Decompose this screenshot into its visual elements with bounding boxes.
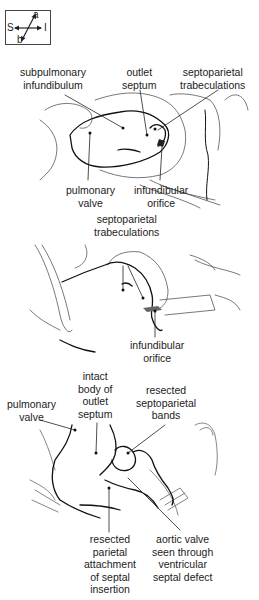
label-resected-septoparietal-bands: resected septoparietal bands (136, 384, 196, 422)
panel-2-drawing (30, 245, 240, 332)
label-infundibular-orifice: infundibular orifice (134, 184, 188, 209)
label-subpulmonary-infundibulum: subpulmonary infundibulum (20, 66, 86, 91)
panel-3-drawing (30, 423, 217, 515)
label-resected-parietal-attachment: resected parietal attachment of septal i… (84, 533, 136, 596)
label-infundibular-orifice-2: infundibular orifice (130, 339, 184, 364)
label-septoparietal-trabeculations: septoparietal trabeculations (180, 66, 245, 91)
label-septoparietal-trabeculations-2: septoparietal trabeculations (94, 213, 159, 238)
label-outlet-septum: outlet septum (122, 66, 156, 91)
label-intact-body-outlet-septum: intact body of outlet septum (78, 370, 112, 420)
label-pulmonary-valve: pulmonary valve (66, 184, 115, 209)
label-aortic-valve-through-vsd: aortic valve seen through ventricular se… (152, 533, 213, 583)
label-pulmonary-valve-3: pulmonary valve (7, 398, 56, 423)
